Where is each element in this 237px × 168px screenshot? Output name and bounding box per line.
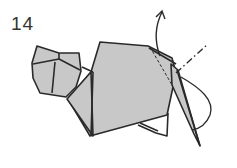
leg-flap: [171, 64, 200, 146]
origami-diagram: [0, 0, 237, 168]
head: [32, 46, 81, 97]
fold-line-dash-dot: [176, 44, 208, 73]
fold-arrow-up: [156, 12, 162, 56]
